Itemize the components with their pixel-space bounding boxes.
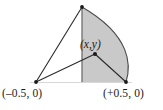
figure-container: (–0.5, 0) (+0.5, 0) (x,y) (0, 0, 163, 110)
right-vertex-label: (+0.5, 0) (103, 87, 144, 99)
interior-point-label: (x,y) (80, 38, 101, 50)
left-vertex-label: (–0.5, 0) (2, 87, 42, 99)
right-vertex-point-marker (124, 80, 128, 84)
interior-point-marker (93, 52, 97, 56)
apex-point-marker (80, 5, 84, 9)
left-vertex-point-marker (34, 80, 38, 84)
